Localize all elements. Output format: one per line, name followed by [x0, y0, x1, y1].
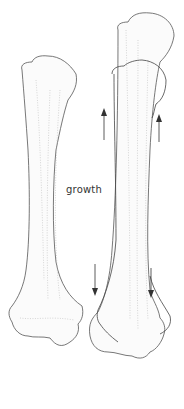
- arrow-down-left-head-icon: [92, 288, 98, 296]
- illustration: [0, 0, 184, 409]
- grown-bone: [89, 13, 174, 358]
- arrow-up-left-head-icon: [101, 108, 107, 116]
- bone-growth-diagram: growth: [0, 0, 184, 409]
- arrow-up-right-head-icon: [156, 114, 162, 122]
- young-bone: [9, 56, 83, 346]
- growth-label: growth: [66, 184, 102, 195]
